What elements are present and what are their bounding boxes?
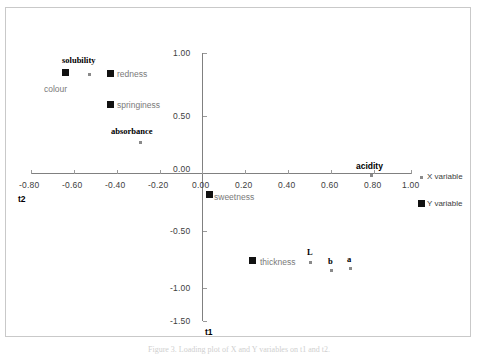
y-tick-label: 0.50 xyxy=(173,112,190,121)
x-tick-label: 1.00 xyxy=(402,181,419,190)
scatter-plot: -0.80 -0.60 -0.40 -0.20 0.00 0.20 0.40 0… xyxy=(6,8,472,338)
x-tick-label: -0.80 xyxy=(19,181,39,190)
legend-marker-small-dot xyxy=(420,176,423,179)
x-tick-label: -0.20 xyxy=(148,181,168,190)
x-tick-label: 0.40 xyxy=(278,181,295,190)
x-tick-mark xyxy=(74,170,75,174)
point-label-colour: colour xyxy=(44,85,67,94)
data-point-thickness xyxy=(249,257,256,264)
x-tick-label: -0.60 xyxy=(62,181,82,190)
legend-label-x-variable: X variable xyxy=(427,173,463,181)
y-tick-label: 0.00 xyxy=(173,165,190,174)
y-tick-mark xyxy=(203,321,207,322)
y-tick-label: -0.50 xyxy=(170,227,190,236)
x-tick-label: 0.60 xyxy=(321,181,338,190)
data-point-colour xyxy=(88,73,91,76)
data-point-redness xyxy=(107,70,114,77)
point-label-sweetness: sweetness xyxy=(214,193,254,202)
x-tick-label: 0.00 xyxy=(192,181,209,190)
point-label-acidity: acidity xyxy=(356,162,383,171)
x-axis-title: t1 xyxy=(205,328,213,337)
data-point-absorbance xyxy=(139,141,142,144)
data-point-sweetness xyxy=(206,191,213,198)
point-label-springiness: springiness xyxy=(117,101,160,110)
x-tick-mark xyxy=(245,170,246,174)
point-label-solubility: solubility xyxy=(62,56,96,65)
data-point-L xyxy=(309,261,312,264)
x-tick-label: -0.40 xyxy=(105,181,125,190)
data-point-solubility xyxy=(62,69,69,76)
x-tick-mark xyxy=(31,170,32,174)
y-tick-mark xyxy=(203,53,207,54)
figure-container: -0.80 -0.60 -0.40 -0.20 0.00 0.20 0.40 0… xyxy=(0,0,478,361)
y-tick-label: -1.00 xyxy=(170,284,190,293)
legend-label-y-variable: Y variable xyxy=(427,200,462,208)
y-tick-label: 1.00 xyxy=(173,49,190,58)
y-tick-mark xyxy=(203,231,207,232)
point-label-thickness: thickness xyxy=(260,258,295,267)
x-tick-label: 0.80 xyxy=(364,181,381,190)
x-tick-mark xyxy=(117,170,118,174)
x-axis-line xyxy=(31,173,411,174)
x-tick-label: 0.20 xyxy=(235,181,252,190)
chart-frame: -0.80 -0.60 -0.40 -0.20 0.00 0.20 0.40 0… xyxy=(5,7,471,337)
y-tick-label: -1.50 xyxy=(170,317,190,326)
data-point-a xyxy=(349,267,352,270)
x-tick-mark xyxy=(288,170,289,174)
y-axis-title: t2 xyxy=(18,195,26,204)
y-tick-mark xyxy=(203,116,207,117)
point-label-a: a xyxy=(347,255,351,264)
data-point-acidity xyxy=(370,174,373,177)
x-tick-mark xyxy=(411,170,412,174)
point-label-absorbance: absorbance xyxy=(111,127,153,136)
figure-caption: Figure 3. Loading plot of X and Y variab… xyxy=(0,345,478,354)
x-tick-mark xyxy=(160,170,161,174)
legend-marker-filled-square xyxy=(418,200,425,207)
point-label-redness: redness xyxy=(117,70,147,79)
data-point-springiness xyxy=(107,101,114,108)
x-tick-mark xyxy=(202,170,203,174)
point-label-L: L xyxy=(307,248,313,257)
data-point-b xyxy=(330,269,333,272)
x-tick-mark xyxy=(331,170,332,174)
point-label-b: b xyxy=(328,257,333,266)
y-tick-mark xyxy=(203,288,207,289)
